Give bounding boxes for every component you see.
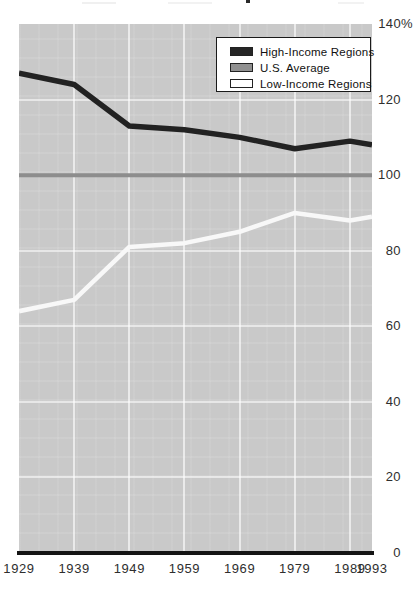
legend-label-low-income: Low-Income Regions: [260, 78, 372, 90]
plot-area: [19, 24, 372, 553]
x-tick-label: 1949: [103, 561, 155, 577]
cropped-title-fragment: [168, 2, 212, 4]
series-lines: [19, 24, 372, 553]
y-tick-label: 60: [340, 318, 413, 334]
series-line-low-income-regions: [19, 213, 372, 311]
legend-item-us-average: U.S. Average: [230, 60, 370, 75]
y-tick-label: 140%: [340, 16, 413, 32]
y-tick-label: 120: [340, 92, 413, 108]
legend-item-high-income: High-Income Regions: [230, 44, 370, 59]
cropped-title-fragment: [246, 0, 250, 3]
legend-swatch-high-income: [230, 47, 253, 56]
legend-swatch-us-average: [230, 63, 253, 72]
y-tick-label: 20: [340, 469, 413, 485]
legend-label-high-income: High-Income Regions: [260, 46, 374, 58]
legend-swatch-low-income: [230, 79, 253, 88]
x-tick-label: 1929: [0, 561, 45, 577]
y-tick-label: 40: [340, 394, 413, 410]
cropped-title-fragment: [82, 2, 116, 4]
y-tick-label: 100: [340, 167, 413, 183]
income-convergence-chart: 020406080100120140% 19291939194919591969…: [0, 0, 414, 594]
cropped-title-fragment: [338, 2, 364, 4]
x-tick-label: 1993: [346, 561, 398, 577]
y-tick-label: 80: [340, 243, 413, 259]
x-tick-label: 1979: [269, 561, 321, 577]
x-tick-label: 1969: [214, 561, 266, 577]
x-tick-label: 1959: [158, 561, 210, 577]
x-tick-label: 1939: [48, 561, 100, 577]
y-tick-label: 0: [340, 545, 413, 561]
legend-label-us-average: U.S. Average: [260, 62, 330, 74]
x-axis-line: [17, 551, 374, 555]
legend: High-Income Regions U.S. Average Low-Inc…: [216, 37, 371, 92]
legend-item-low-income: Low-Income Regions: [230, 76, 370, 91]
